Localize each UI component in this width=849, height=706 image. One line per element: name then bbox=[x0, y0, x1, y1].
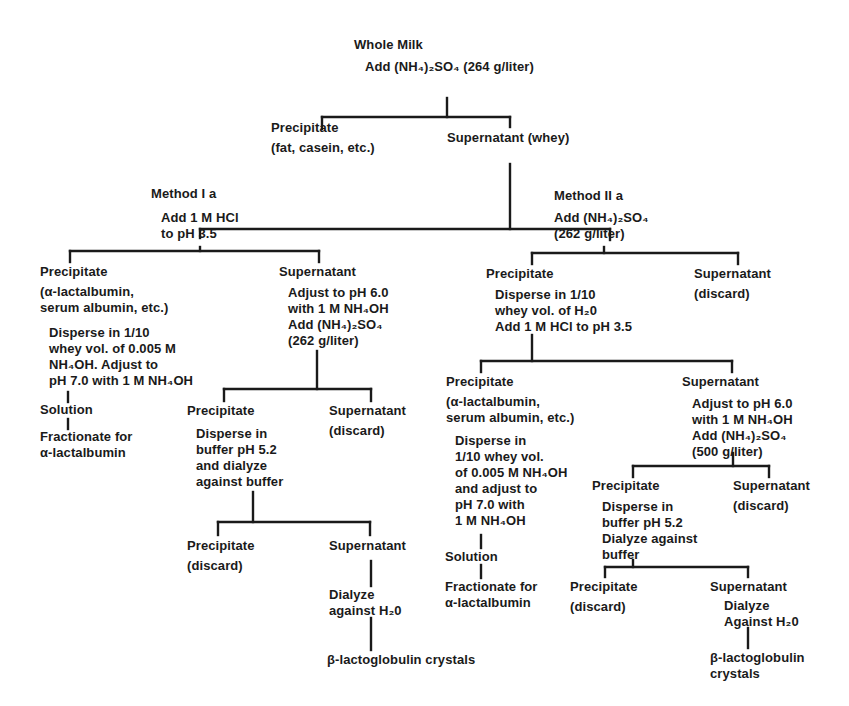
node-text: whey vol. of H₂0 bbox=[495, 303, 632, 319]
node-text: Supernatant (whey) bbox=[447, 130, 569, 146]
node-text: (262 g/liter) bbox=[554, 226, 649, 242]
node-text: buffer bbox=[602, 547, 697, 563]
node-text: of 0.005 M NH₄OH bbox=[455, 465, 568, 481]
node-add-ammonium-sulfate-264: Add (NH₄)₂SO₄ (264 g/liter) bbox=[365, 59, 534, 75]
node-text: Precipitate bbox=[187, 538, 255, 554]
node-m2-crystals: β-lactoglobulin crystals bbox=[710, 650, 805, 682]
node-text: 1/10 whey vol. bbox=[455, 449, 568, 465]
node-text: Disperse in 1/10 bbox=[49, 325, 193, 341]
node-text: Add (NH₄)₂SO₄ bbox=[554, 210, 649, 226]
node-text: serum albumin, etc.) bbox=[446, 410, 574, 426]
node-text: α-lactalbumin bbox=[445, 595, 538, 611]
node-m1-crystals: β-lactoglobulin crystals bbox=[327, 652, 475, 668]
node-text: whey vol. of 0.005 M bbox=[49, 341, 193, 357]
node-text: Disperse in bbox=[455, 433, 568, 449]
node-text: (discard) bbox=[733, 498, 810, 514]
node-method-2a: Method II a bbox=[554, 188, 623, 204]
node-text: Precipitate bbox=[486, 266, 554, 282]
node-m1-precipitate-2: Precipitate bbox=[187, 403, 255, 419]
node-text: Disperse in bbox=[602, 499, 697, 515]
node-text: pH 7.0 with 1 M NH₄OH bbox=[49, 373, 193, 389]
node-text: with 1 M NH₄OH bbox=[288, 301, 389, 317]
node-text: Whole Milk bbox=[354, 37, 423, 53]
node-text: Supernatant bbox=[329, 538, 406, 554]
node-text: β-lactoglobulin bbox=[710, 650, 805, 666]
node-method-2a-step: Add (NH₄)₂SO₄ (262 g/liter) bbox=[554, 210, 649, 242]
node-text: Precipitate bbox=[40, 264, 168, 280]
node-text: Dialyze against bbox=[602, 531, 697, 547]
node-m1-precipitate-2-step: Disperse in buffer pH 5.2 and dialyze ag… bbox=[196, 426, 283, 490]
node-method-1a-step: Add 1 M HCl to pH 3.5 bbox=[161, 210, 239, 242]
node-m2-supernatant-4: Supernatant bbox=[710, 579, 787, 595]
node-text: Precipitate bbox=[570, 579, 638, 595]
node-text: Solution bbox=[40, 402, 93, 418]
node-text: Adjust to pH 6.0 bbox=[692, 396, 793, 412]
node-text: Supernatant bbox=[279, 264, 356, 280]
node-text: Precipitate bbox=[446, 374, 574, 390]
node-m2-supernatant-2: Supernatant bbox=[682, 374, 759, 390]
node-text: (discard) bbox=[694, 286, 771, 302]
node-m1-supernatant-3: Supernatant bbox=[329, 538, 406, 554]
node-text: Add (NH₄)₂SO₄ bbox=[288, 317, 389, 333]
node-text: buffer pH 5.2 bbox=[602, 515, 697, 531]
node-text: Add 1 M HCl bbox=[161, 210, 239, 226]
node-text: and adjust to bbox=[455, 481, 568, 497]
node-text: (fat, casein, etc.) bbox=[271, 140, 375, 156]
node-text: NH₄OH. Adjust to bbox=[49, 357, 193, 373]
node-text: (α-lactalbumin, bbox=[40, 284, 168, 300]
node-m1-fractionate: Fractionate for α-lactalbumin bbox=[40, 429, 133, 461]
node-m2-precipitate-2-step: Disperse in 1/10 whey vol. of 0.005 M NH… bbox=[455, 433, 568, 529]
node-text: Supernatant bbox=[329, 403, 406, 419]
node-m1-solution: Solution bbox=[40, 402, 93, 418]
node-text: (discard) bbox=[570, 599, 638, 615]
node-text: against H₂0 bbox=[329, 603, 402, 619]
node-text: and dialyze bbox=[196, 458, 283, 474]
node-text: Supernatant bbox=[694, 266, 771, 282]
node-text: against buffer bbox=[196, 474, 283, 490]
node-text: Precipitate bbox=[187, 403, 255, 419]
node-m1-precipitate-step: Disperse in 1/10 whey vol. of 0.005 M NH… bbox=[49, 325, 193, 389]
node-text: Dialyze bbox=[724, 598, 799, 614]
node-m1-precipitate: Precipitate (α-lactalbumin, serum albumi… bbox=[40, 264, 168, 316]
node-precipitate-fat-casein: Precipitate (fat, casein, etc.) bbox=[271, 120, 375, 156]
node-text: 1 M NH₄OH bbox=[455, 513, 568, 529]
node-whole-milk: Whole Milk bbox=[354, 37, 423, 53]
node-supernatant-whey: Supernatant (whey) bbox=[447, 130, 569, 146]
node-text: crystals bbox=[710, 666, 805, 682]
node-text: Against H₂0 bbox=[724, 614, 799, 630]
node-text: (262 g/liter) bbox=[288, 333, 389, 349]
node-text: Dialyze bbox=[329, 587, 402, 603]
node-text: Add (NH₄)₂SO₄ (264 g/liter) bbox=[365, 59, 534, 75]
node-text: Add 1 M HCl to pH 3.5 bbox=[495, 319, 632, 335]
node-m2-precipitate-4-discard: Precipitate (discard) bbox=[570, 579, 638, 615]
node-m1-supernatant: Supernatant bbox=[279, 264, 356, 280]
node-text: Precipitate bbox=[271, 120, 375, 136]
node-text: buffer pH 5.2 bbox=[196, 442, 283, 458]
node-text: Disperse in 1/10 bbox=[495, 287, 632, 303]
node-text: Supernatant bbox=[733, 478, 810, 494]
fractionation-flowchart: Whole Milk Add (NH₄)₂SO₄ (264 g/liter) P… bbox=[0, 0, 849, 706]
node-text: (500 g/liter) bbox=[692, 444, 793, 460]
node-text: Fractionate for bbox=[445, 579, 538, 595]
node-text: β-lactoglobulin crystals bbox=[327, 652, 475, 668]
node-text: serum albumin, etc.) bbox=[40, 300, 168, 316]
node-text: (discard) bbox=[187, 558, 255, 574]
node-text: α-lactalbumin bbox=[40, 445, 133, 461]
node-text: Method I a bbox=[151, 186, 216, 202]
node-m1-supernatant-step: Adjust to pH 6.0 with 1 M NH₄OH Add (NH₄… bbox=[288, 285, 389, 349]
node-m2-precipitate-3-step: Disperse in buffer pH 5.2 Dialyze agains… bbox=[602, 499, 697, 563]
node-m2-dialyze: Dialyze Against H₂0 bbox=[724, 598, 799, 630]
node-text: with 1 M NH₄OH bbox=[692, 412, 793, 428]
node-m1-supernatant-discard: Supernatant (discard) bbox=[329, 403, 406, 439]
node-text: pH 7.0 with bbox=[455, 497, 568, 513]
node-text: Fractionate for bbox=[40, 429, 133, 445]
node-m2-fractionate: Fractionate for α-lactalbumin bbox=[445, 579, 538, 611]
node-m1-dialyze: Dialyze against H₂0 bbox=[329, 587, 402, 619]
node-text: Supernatant bbox=[682, 374, 759, 390]
node-text: to pH 3.5 bbox=[161, 226, 239, 242]
node-text: Method II a bbox=[554, 188, 623, 204]
node-m2-precipitate-step: Disperse in 1/10 whey vol. of H₂0 Add 1 … bbox=[495, 287, 632, 335]
node-text: Add (NH₄)₂SO₄ bbox=[692, 428, 793, 444]
node-text: Disperse in bbox=[196, 426, 283, 442]
node-method-1a: Method I a bbox=[151, 186, 216, 202]
